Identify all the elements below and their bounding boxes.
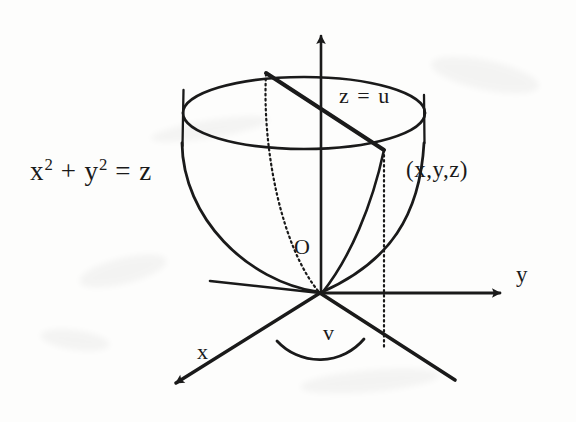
label-axis-x: x [197, 341, 208, 363]
equation-plus-y: + y [61, 156, 99, 186]
rim-tick-right [424, 95, 425, 143]
label-angle-v: v [323, 322, 334, 344]
paraboloid-back-profile-dotted [265, 74, 319, 292]
equation-equals-z: = z [115, 156, 152, 186]
axis-negative-y-ray [210, 281, 320, 293]
label-surface-equation: x2 + y2 = z [30, 157, 152, 185]
axis-negative-x-ray [320, 293, 455, 380]
equation-exponent-1: 2 [45, 155, 53, 174]
axis-x-line [176, 293, 320, 383]
label-axis-y: y [516, 263, 528, 286]
rim-front-arc [183, 113, 425, 149]
figure-drawing [0, 0, 576, 422]
rim-tick-left [183, 90, 184, 146]
angle-arc-v [277, 339, 364, 360]
paraboloid-inner-profile [322, 150, 384, 293]
paraboloid-figure: x2 + y2 = z z = u (x,y,z) O y x v [0, 0, 576, 422]
label-point-coordinates: (x,y,z) [406, 158, 468, 181]
equation-exponent-2: 2 [99, 155, 107, 174]
label-origin: O [294, 236, 310, 258]
equation-x: x [30, 156, 45, 186]
label-plane-equation: z = u [339, 85, 391, 107]
paraboloid-wall-left [182, 143, 318, 292]
